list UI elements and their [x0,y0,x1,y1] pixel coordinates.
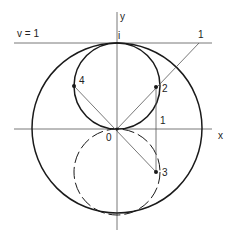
point-2-marker [154,85,158,89]
point-1-top-label: 1 [198,30,204,40]
point-3-marker [154,170,158,174]
line-origin-to-1 [117,43,199,129]
y-axis-label: y [120,12,125,22]
v-equals-1-label: v = 1 [17,29,39,39]
i-label: i [118,31,120,41]
origin-label: 0 [106,133,112,143]
point-3-label: 3 [162,168,168,178]
point-4-marker [72,84,76,88]
x-axis-label: x [218,131,223,141]
point-4-label: 4 [79,76,85,86]
origin-marker [116,128,119,131]
point-1-axis-label: 1 [160,116,166,126]
point-2-label: 2 [162,84,168,94]
